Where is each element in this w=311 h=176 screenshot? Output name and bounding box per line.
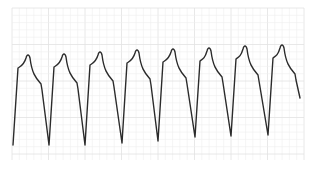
- ecg-chart: [0, 0, 311, 176]
- ecg-strip: ECG-style waveform strip with 8 repeatin…: [0, 0, 311, 176]
